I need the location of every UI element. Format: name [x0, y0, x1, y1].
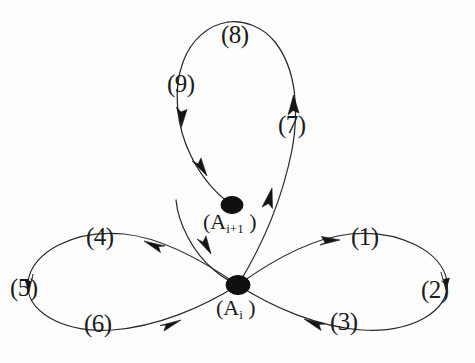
edge-right-lobe-top	[238, 233, 447, 285]
edge-left-lobe-bottom	[28, 281, 238, 330]
figure-canvas: (1) (2) (3) (4) (5) (6) (7) (8) (9) (Ai+…	[0, 0, 475, 363]
edge-label-5: (5)	[10, 275, 38, 300]
edge-label-8: (8)	[221, 22, 249, 47]
edge-label-2: (2)	[421, 277, 449, 302]
edge-label-3: (3)	[330, 309, 358, 334]
edge-label-4: (4)	[86, 224, 114, 249]
edge-label-6: (6)	[84, 311, 112, 336]
node-upper-label: (Ai+1 )	[203, 211, 257, 233]
node-lower-label-main: (A	[216, 295, 239, 320]
edge-label-9: (9)	[167, 71, 195, 96]
arrow-incoming-tail-icon	[197, 236, 211, 254]
edge-label-1: (1)	[351, 224, 379, 249]
edge-label-7: (7)	[278, 112, 306, 137]
node-lower-label: (Ai )	[216, 297, 256, 319]
node-upper-label-tail: )	[244, 209, 257, 234]
edge-upper-loop-right	[228, 22, 296, 285]
node-lower-label-tail: )	[243, 295, 256, 320]
arrow-segment-7-lower-icon	[262, 188, 273, 209]
node-upper-label-subscript: i+1	[226, 221, 243, 236]
arrow-segment-6-icon	[160, 320, 181, 331]
arrow-segment-9-lower-icon	[192, 158, 207, 176]
node-lower-label-subscript: i	[239, 307, 243, 322]
node-lower-dot	[226, 276, 250, 295]
node-upper-label-main: (A	[203, 209, 226, 234]
